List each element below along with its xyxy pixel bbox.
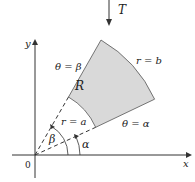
y-axis-label: y (24, 38, 31, 49)
y-axis (32, 39, 38, 178)
alpha-angle-arc (76, 136, 80, 155)
lower-ray-label: θ = α (122, 118, 150, 129)
region-label: R (74, 79, 84, 93)
x-axis-label: x (183, 158, 189, 169)
polar-region-diagram: T x y 0 R r = b θ = β r = a θ = α β α (0, 0, 195, 182)
diagram-svg: T x y 0 R r = b θ = β r = a θ = α β α (0, 0, 195, 182)
beta-angle-label: β (48, 133, 55, 146)
inner-arc-label: r = a (61, 116, 87, 127)
x-axis (12, 152, 192, 158)
transform-arrow (106, 0, 112, 26)
outer-arc-label: r = b (136, 55, 162, 66)
upper-ray-label: θ = β (55, 61, 82, 72)
alpha-angle-label: α (82, 138, 90, 151)
origin-label: 0 (25, 160, 31, 170)
transform-label: T (118, 3, 127, 17)
